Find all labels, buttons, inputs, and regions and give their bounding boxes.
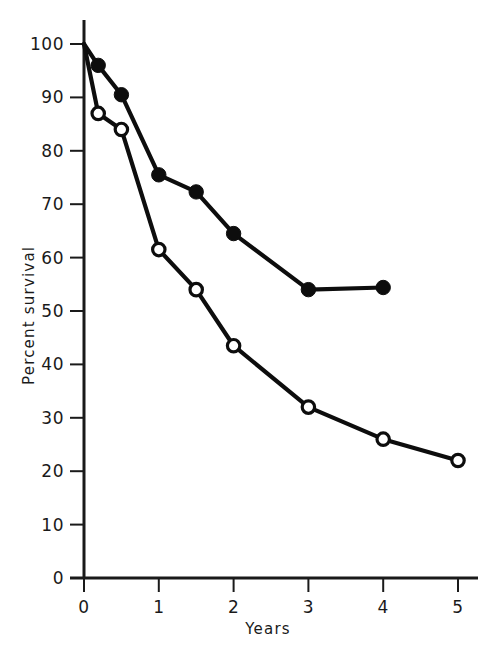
y-tick-group <box>70 44 84 578</box>
data-point-open <box>302 401 314 413</box>
data-point-open <box>190 283 202 295</box>
survival-chart-svg: 0102030405060708090100 012345 Percent su… <box>0 0 501 650</box>
data-point-open <box>377 433 389 445</box>
data-point-filled <box>152 168 166 182</box>
y-axis: 0102030405060708090100 <box>30 20 84 588</box>
x-tick-label: 4 <box>378 597 389 617</box>
y-tick-label: 0 <box>53 568 64 588</box>
data-point-filled <box>91 58 105 72</box>
data-series-layer <box>84 44 464 467</box>
data-point-filled <box>189 185 203 199</box>
y-tick-label: 30 <box>41 408 64 428</box>
y-tick-label: 60 <box>41 248 64 268</box>
data-point-filled <box>301 282 315 296</box>
x-axis: 012345 <box>70 578 478 617</box>
y-tick-label: 20 <box>41 461 64 481</box>
x-tick-group <box>84 578 458 592</box>
data-point-open <box>227 340 239 352</box>
x-tick-label-group: 012345 <box>78 597 463 617</box>
series-line <box>84 44 458 461</box>
data-point-filled <box>226 226 240 240</box>
data-point-open <box>92 107 104 119</box>
x-tick-label: 3 <box>303 597 314 617</box>
data-point-open <box>452 454 464 466</box>
y-tick-label: 70 <box>41 194 64 214</box>
y-tick-label: 10 <box>41 515 64 535</box>
x-axis-title: Years <box>244 620 291 638</box>
data-point-filled <box>114 88 128 102</box>
chart-figure: 0102030405060708090100 012345 Percent su… <box>0 0 501 650</box>
y-tick-label: 50 <box>41 301 64 321</box>
data-point-open <box>115 123 127 135</box>
y-tick-label: 40 <box>41 354 64 374</box>
y-tick-label: 80 <box>41 141 64 161</box>
y-tick-label: 90 <box>41 87 64 107</box>
y-tick-label: 100 <box>30 34 64 54</box>
data-point-filled <box>376 280 390 294</box>
y-axis-title: Percent survival <box>20 246 38 385</box>
data-point-open <box>153 243 165 255</box>
series-1 <box>84 44 390 297</box>
x-tick-label: 1 <box>153 597 164 617</box>
x-tick-label: 5 <box>452 597 463 617</box>
x-tick-label: 0 <box>78 597 89 617</box>
series-2 <box>84 44 464 467</box>
series-line <box>84 44 383 290</box>
x-tick-label: 2 <box>228 597 239 617</box>
